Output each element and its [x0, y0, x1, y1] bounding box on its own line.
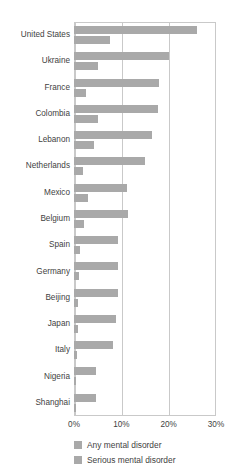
- bar-any-mental-disorder: [74, 210, 128, 218]
- bar-serious-mental-disorder: [74, 220, 84, 228]
- bar-row: [74, 127, 216, 153]
- y-axis-labels: United StatesUkraineFranceColombiaLebano…: [0, 22, 70, 416]
- bar-row: [74, 180, 216, 206]
- legend-swatch-icon: [74, 456, 82, 464]
- bar-serious-mental-disorder: [74, 36, 110, 44]
- bar-any-mental-disorder: [74, 315, 116, 323]
- y-axis-tick-label: Ukraine: [0, 56, 70, 65]
- x-axis-labels: 0%10%20%30%: [0, 419, 231, 433]
- legend-label: Any mental disorder: [87, 440, 161, 450]
- bar-serious-mental-disorder: [74, 325, 78, 333]
- y-axis-tick-label: France: [0, 83, 70, 92]
- bar-any-mental-disorder: [74, 157, 145, 165]
- bar-serious-mental-disorder: [74, 272, 79, 280]
- bar-any-mental-disorder: [74, 289, 118, 297]
- bar-chart: United StatesUkraineFranceColombiaLebano…: [0, 0, 231, 473]
- y-axis-tick-label: Beijing: [0, 293, 70, 302]
- bar-row: [74, 48, 216, 74]
- y-axis-tick-label: Germany: [0, 267, 70, 276]
- bar-any-mental-disorder: [74, 394, 96, 402]
- bar-any-mental-disorder: [74, 26, 197, 34]
- bar-any-mental-disorder: [74, 52, 169, 60]
- bar-row: [74, 311, 216, 337]
- bar-serious-mental-disorder: [74, 246, 80, 254]
- bar-any-mental-disorder: [74, 341, 113, 349]
- legend-item: Serious mental disorder: [74, 452, 224, 467]
- bar-row: [74, 337, 216, 363]
- y-axis-tick-label: Shanghai: [0, 398, 70, 407]
- bar-serious-mental-disorder: [74, 299, 78, 307]
- bar-any-mental-disorder: [74, 262, 118, 270]
- bar-serious-mental-disorder: [74, 89, 86, 97]
- bar-any-mental-disorder: [74, 236, 118, 244]
- y-axis-tick-label: Netherlands: [0, 161, 70, 170]
- x-axis-tick-label: 10%: [113, 419, 129, 430]
- y-axis-tick-label: Lebanon: [0, 135, 70, 144]
- bar-row: [74, 22, 216, 48]
- y-axis-tick-label: Italy: [0, 345, 70, 354]
- bar-serious-mental-disorder: [74, 404, 76, 412]
- y-axis-tick-label: Spain: [0, 240, 70, 249]
- bar-row: [74, 101, 216, 127]
- bar-row: [74, 258, 216, 284]
- legend-swatch-icon: [74, 441, 82, 449]
- bar-row: [74, 153, 216, 179]
- y-axis-tick-label: Mexico: [0, 188, 70, 197]
- legend: Any mental disorderSerious mental disord…: [74, 437, 224, 467]
- bar-row: [74, 285, 216, 311]
- bar-serious-mental-disorder: [74, 194, 88, 202]
- legend-item: Any mental disorder: [74, 437, 224, 452]
- y-axis-tick-label: United States: [0, 30, 70, 39]
- y-axis-tick-label: Nigeria: [0, 372, 70, 381]
- bar-row: [74, 232, 216, 258]
- bar-row: [74, 390, 216, 416]
- bar-serious-mental-disorder: [74, 377, 76, 385]
- bar-serious-mental-disorder: [74, 115, 98, 123]
- legend-label: Serious mental disorder: [87, 455, 175, 465]
- x-axis-tick-label: 20%: [160, 419, 176, 430]
- bar-any-mental-disorder: [74, 184, 127, 192]
- bar-serious-mental-disorder: [74, 141, 94, 149]
- bar-any-mental-disorder: [74, 79, 159, 87]
- bar-row: [74, 363, 216, 389]
- bar-row: [74, 206, 216, 232]
- x-axis-tick-label: 0%: [68, 419, 80, 430]
- bar-row: [74, 75, 216, 101]
- bar-serious-mental-disorder: [74, 167, 83, 175]
- bar-any-mental-disorder: [74, 131, 152, 139]
- y-axis-tick-label: Japan: [0, 319, 70, 328]
- bar-any-mental-disorder: [74, 105, 158, 113]
- bar-any-mental-disorder: [74, 367, 96, 375]
- y-axis-tick-label: Belgium: [0, 214, 70, 223]
- bar-serious-mental-disorder: [74, 62, 98, 70]
- bars-layer: [74, 22, 216, 416]
- x-axis-tick-label: 30%: [208, 419, 224, 430]
- y-axis-tick-label: Colombia: [0, 109, 70, 118]
- bar-serious-mental-disorder: [74, 351, 77, 359]
